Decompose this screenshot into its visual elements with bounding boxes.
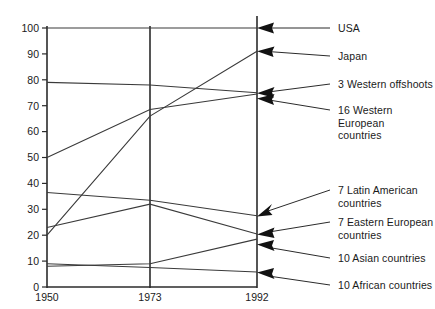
y-tick-label-50: 50 xyxy=(27,151,39,163)
arrowhead-african xyxy=(257,268,275,279)
series-line-16-western-european-countries xyxy=(47,94,257,157)
series-label-eastern-european: 7 Eastern European countries xyxy=(338,216,433,241)
x-tick-label-1950: 1950 xyxy=(35,291,59,303)
series-label-asian: 10 Asian countries xyxy=(338,252,426,265)
series-line-7-eastern-european-countries xyxy=(47,204,257,234)
series-label-african: 10 African countries xyxy=(338,279,432,292)
series-line-10-asian-countries xyxy=(47,239,257,266)
y-tick-label-40: 40 xyxy=(27,177,39,189)
x-tick-label-1992: 1992 xyxy=(245,291,269,303)
series-label-japan: Japan xyxy=(338,50,367,63)
series-line-3-western-offshoots xyxy=(47,82,257,92)
series-label-western-offshoots: 3 Western offshoots xyxy=(338,78,433,91)
arrowhead-asian xyxy=(257,240,275,251)
arrowhead-usa xyxy=(257,23,274,34)
y-tick-label-70: 70 xyxy=(27,100,39,112)
annotation-leaders xyxy=(257,23,330,286)
x-tick-label-1973: 1973 xyxy=(138,291,162,303)
series-line-10-african-countries xyxy=(47,264,257,272)
y-tick-label-30: 30 xyxy=(27,203,39,215)
arrowhead-western-european xyxy=(257,94,275,105)
y-tick-label-60: 60 xyxy=(27,125,39,137)
y-tick-label-80: 80 xyxy=(27,74,39,86)
series-label-usa: USA xyxy=(338,22,360,35)
y-tick-label-10: 10 xyxy=(27,255,39,267)
y-tick-label-90: 90 xyxy=(27,48,39,60)
series-label-western-european: 16 Western European countries xyxy=(338,104,435,142)
arrowhead-eastern-european xyxy=(257,228,275,239)
arrowhead-japan xyxy=(257,47,275,58)
chart-container: 100 90 80 70 60 50 40 30 20 10 0 1950 19… xyxy=(0,0,435,309)
series-lines-group xyxy=(47,28,257,272)
series-label-latin-american: 7 Latin American countries xyxy=(338,184,418,209)
y-tick-label-100: 100 xyxy=(21,22,39,34)
y-tick-label-20: 20 xyxy=(27,229,39,241)
